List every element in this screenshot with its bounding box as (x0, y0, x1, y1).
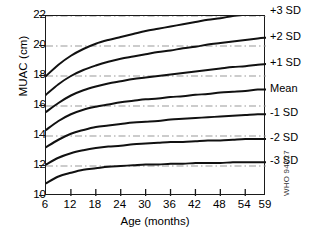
x-tick-label: 30 (132, 198, 158, 210)
sd-curve (46, 139, 266, 165)
sd-label-1sd: +1 SD (270, 56, 301, 68)
x-tick-label: 36 (157, 198, 183, 210)
x-tick-marks (71, 189, 245, 196)
y-tick-mark (39, 195, 45, 196)
sd-label--1sd: -1 SD (270, 106, 298, 118)
muac-growth-chart: MUAC (cm) 10121416182022 612182430364248… (0, 0, 314, 249)
x-tick-label: 24 (107, 198, 133, 210)
x-tick-label: 18 (82, 198, 108, 210)
sd-curve (46, 162, 266, 183)
sd-label-2sd: +2 SD (270, 30, 301, 42)
x-tick-label: 12 (57, 198, 83, 210)
x-axis-title: Age (months) (45, 215, 265, 227)
sd-curves (46, 16, 266, 183)
sd-curve (46, 89, 266, 130)
plot-area (45, 15, 265, 195)
who-code-stamp: WHO 94727 (282, 144, 291, 196)
sd-label-3sd: +3 SD (270, 4, 301, 16)
x-tick-label: 42 (181, 198, 207, 210)
x-tick-label: 6 (32, 198, 58, 210)
chart-canvas (46, 16, 266, 196)
sd-label--2sd: -2 SD (270, 131, 298, 143)
x-tick-label: 59 (252, 198, 278, 210)
sd-label-mean: Mean (270, 82, 298, 94)
x-tick-label: 48 (206, 198, 232, 210)
